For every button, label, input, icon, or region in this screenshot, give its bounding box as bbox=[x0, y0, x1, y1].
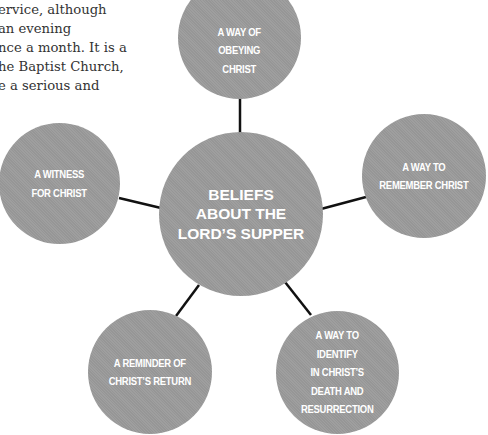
node-label-line: A REMINDER OF bbox=[114, 354, 186, 373]
node-label: A WAY OF OBEYING CHRIST bbox=[218, 23, 261, 79]
node-label-line: RESURRECTION bbox=[301, 400, 374, 419]
node-label-line: REMEMBER CHRIST bbox=[379, 176, 468, 195]
node-reminder-of-return: A REMINDER OF CHRIST’S RETURN bbox=[88, 310, 212, 434]
node-label: A REMINDER OF CHRIST’S RETURN bbox=[109, 354, 191, 391]
node-label-line: CHRIST’S RETURN bbox=[109, 372, 191, 391]
node-label: A WITNESS FOR CHRIST bbox=[32, 165, 87, 202]
node-label: A WAY TO REMEMBER CHRIST bbox=[379, 158, 468, 195]
node-label-line: DEATH AND bbox=[311, 382, 363, 401]
node-label-line: ABOUT THE bbox=[196, 204, 286, 224]
node-label-line: BELIEFS bbox=[208, 185, 273, 205]
node-label-line: OBEYING bbox=[219, 41, 261, 60]
node-label-line: A WITNESS bbox=[35, 165, 85, 184]
node-label-line: CHRIST bbox=[223, 60, 257, 79]
node-label-line: LORD’S SUPPER bbox=[178, 224, 305, 244]
node-label-line: A WAY OF bbox=[218, 23, 261, 42]
node-label: A WAY TO IDENTIFY IN CHRIST’S DEATH AND … bbox=[301, 326, 374, 419]
node-identify-death-resurrection: A WAY TO IDENTIFY IN CHRIST’S DEATH AND … bbox=[276, 311, 399, 434]
node-label-line: A WAY TO bbox=[402, 158, 445, 177]
node-label-line: FOR CHRIST bbox=[32, 184, 87, 203]
node-central-beliefs: BELIEFS ABOUT THE LORD’S SUPPER bbox=[159, 132, 323, 296]
node-remember-christ: A WAY TO REMEMBER CHRIST bbox=[362, 114, 486, 238]
connector-bottom-right bbox=[285, 282, 311, 315]
connector-left bbox=[119, 198, 161, 208]
node-witness-for-christ: A WITNESS FOR CHRIST bbox=[0, 123, 120, 244]
node-label-line: IN CHRIST’S bbox=[311, 363, 364, 382]
connector-right bbox=[321, 197, 366, 209]
connector-bottom-left bbox=[176, 285, 199, 316]
node-label-line: A WAY TO bbox=[316, 326, 359, 345]
node-label-line: IDENTIFY bbox=[317, 345, 358, 364]
node-label: BELIEFS ABOUT THE LORD’S SUPPER bbox=[178, 185, 305, 244]
